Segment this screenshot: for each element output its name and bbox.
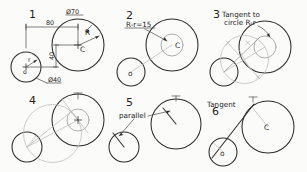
panel-2: 2 R-r=15 C o bbox=[117, 9, 198, 86]
technical-drawing: 1 Ø70 80 40 bbox=[0, 0, 307, 172]
label-R-1: R bbox=[85, 28, 90, 37]
radius-large-5 bbox=[163, 108, 176, 124]
arrowhead-R-1 bbox=[95, 36, 99, 39]
radius-small-4 bbox=[27, 136, 36, 147]
cross-mark-b-3 bbox=[256, 75, 260, 79]
panel-6: 6 Tangent C o bbox=[206, 97, 294, 166]
arrowhead-r-1 bbox=[33, 60, 37, 63]
label-o-2: o bbox=[128, 69, 133, 78]
dim-40-label: 40 bbox=[48, 52, 56, 60]
panel-5: 5 parallel bbox=[109, 96, 201, 162]
panel-4: 4 bbox=[12, 93, 104, 163]
arrowhead-parallel-small-5 bbox=[119, 133, 123, 136]
panel-1: 1 Ø70 80 40 bbox=[11, 8, 104, 85]
cross-mark-c-3 bbox=[246, 41, 250, 45]
note-parallel-5: parallel bbox=[119, 111, 146, 120]
label-C-6: C bbox=[264, 123, 269, 132]
step-number-3: 3 bbox=[213, 8, 220, 21]
step-number-5: 5 bbox=[126, 96, 133, 109]
leader-dia-small-1 bbox=[36, 78, 47, 83]
note-tangent-6: Tangent bbox=[206, 100, 236, 109]
drawing-canvas: 1 Ø70 80 40 bbox=[0, 0, 307, 172]
note-R-minus-r-2: R-r=15 bbox=[126, 20, 151, 29]
note-circle-R-minus-r-3: circle R-r bbox=[224, 18, 256, 27]
label-o-6: o bbox=[220, 149, 225, 158]
label-C-1: C bbox=[80, 45, 85, 54]
center-line-2 bbox=[131, 45, 172, 72]
dim-80-label: 80 bbox=[46, 19, 54, 27]
dim-diameter-small-1: Ø40 bbox=[48, 76, 61, 84]
label-r-1: r bbox=[28, 56, 31, 63]
step-number-1: 1 bbox=[29, 8, 36, 21]
label-C-2: C bbox=[175, 41, 180, 50]
step-number-4: 4 bbox=[29, 94, 36, 107]
tangent-line-4 bbox=[27, 111, 72, 147]
label-o-1: o bbox=[23, 68, 27, 75]
panel-3: 3 Tangent to circle R-r bbox=[210, 8, 291, 86]
dim-diameter-large-1: Ø70 bbox=[66, 8, 79, 16]
